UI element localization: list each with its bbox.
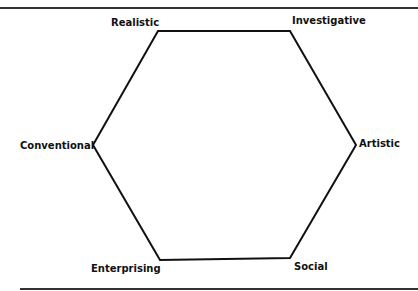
label-conventional: Conventional — [20, 140, 94, 151]
label-realistic: Realistic — [111, 17, 159, 28]
label-enterprising: Enterprising — [91, 263, 161, 274]
label-social: Social — [294, 261, 328, 272]
label-artistic: Artistic — [359, 138, 400, 149]
label-investigative: Investigative — [292, 15, 366, 26]
hexagon-shape — [93, 31, 356, 260]
